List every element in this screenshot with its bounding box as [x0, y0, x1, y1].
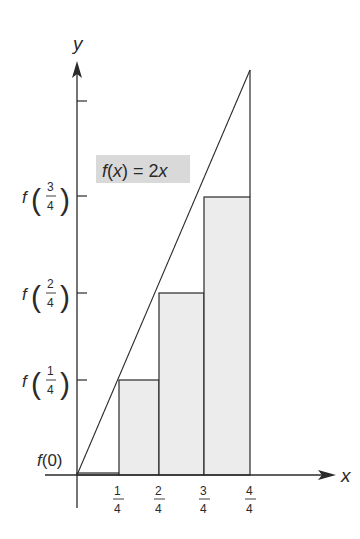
svg-text:4: 4	[246, 502, 253, 516]
svg-text:): )	[60, 367, 70, 400]
svg-text:f: f	[22, 285, 29, 304]
svg-text:4: 4	[47, 296, 54, 310]
x-axis-label: x	[340, 465, 352, 486]
svg-text:4: 4	[47, 199, 54, 213]
function-label: f(x) = 2x	[96, 155, 190, 183]
riemann-sum-diagram: x y f(x) = 2x f ( 3 4 ) f ( 2 4 ) f ( 1 …	[0, 0, 360, 539]
svg-text:3: 3	[47, 180, 54, 194]
y-tick-label-f2: f ( 2 4 )	[22, 277, 70, 313]
y-tick-label-f0: f(0)	[37, 451, 63, 470]
svg-text:4: 4	[155, 502, 162, 516]
svg-text:(: (	[31, 367, 41, 400]
y-tick-label-f3: f ( 3 4 )	[22, 180, 70, 216]
svg-text:f: f	[22, 188, 29, 207]
svg-text:2: 2	[47, 277, 54, 291]
x-tick-label-3: 3 4	[199, 484, 210, 516]
svg-text:1: 1	[47, 364, 54, 378]
svg-text:f(x) = 2x: f(x) = 2x	[102, 161, 169, 181]
rectangle-3	[159, 293, 204, 475]
x-tick-label-1: 1 4	[113, 484, 124, 516]
rectangle-4	[204, 197, 250, 475]
svg-text:2: 2	[155, 484, 162, 498]
x-tick-label-2: 2 4	[154, 484, 165, 516]
svg-text:4: 4	[47, 383, 54, 397]
svg-text:1: 1	[114, 484, 121, 498]
svg-text:): )	[60, 280, 70, 313]
x-tick-label-4: 4 4	[245, 484, 256, 516]
svg-text:4: 4	[200, 502, 207, 516]
svg-text:4: 4	[246, 484, 253, 498]
y-axis-label: y	[71, 33, 84, 54]
svg-text:(: (	[31, 183, 41, 216]
riemann-rectangles	[77, 197, 250, 475]
svg-text:4: 4	[114, 502, 121, 516]
svg-text:(: (	[31, 280, 41, 313]
svg-text:): )	[60, 183, 70, 216]
y-tick-label-f1: f ( 1 4 )	[22, 364, 70, 400]
y-ticks	[77, 101, 87, 380]
svg-text:3: 3	[200, 484, 207, 498]
svg-text:f: f	[22, 372, 29, 391]
rectangle-2	[119, 380, 159, 475]
